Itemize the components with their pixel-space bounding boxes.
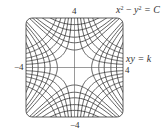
top-tick-label: 4 [72, 7, 77, 16]
right-tick-label: 4 [125, 66, 130, 75]
bottom-tick-label: −4 [70, 121, 80, 130]
eq-minus: − [123, 4, 134, 15]
hyperbola-curve [2, 77, 66, 136]
hyperbola-curve [3, 0, 51, 136]
family1-equation-label: x2 − y2 = C [116, 5, 160, 15]
hyperbola-families-plot [0, 0, 161, 136]
hyperbola-curve [84, 77, 148, 136]
eq-rhs: = C [142, 4, 160, 15]
left-tick-label: −4 [14, 63, 24, 72]
hyperbola-curve [99, 0, 147, 136]
family2-equation-label: xy = k [126, 54, 151, 64]
